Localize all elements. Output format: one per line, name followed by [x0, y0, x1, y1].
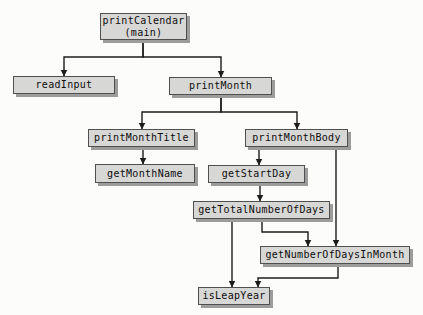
node-getStartDay: getStartDay	[208, 165, 305, 183]
edge-getTotalNumberOfDays-getNumberOfDaysInMonth	[262, 219, 308, 246]
node-readInput: readInput	[13, 76, 115, 94]
node-getTotalNumberOfDays: getTotalNumberOfDays	[193, 201, 330, 219]
edge-printCalendar-readInput	[64, 40, 143, 76]
node-printMonthTitle: printMonthTitle	[88, 129, 195, 147]
node-getMonthName: getMonthName	[95, 164, 195, 183]
edge-printMonth-printMonthBody	[221, 95, 297, 129]
structure-chart: printCalendar (main) readInput printMont…	[0, 0, 423, 315]
node-getNumberOfDaysInMonth: getNumberOfDaysInMonth	[260, 246, 410, 264]
node-printMonthBody: printMonthBody	[245, 129, 348, 147]
edge-printCalendar-printMonth	[143, 40, 221, 77]
node-printMonth: printMonth	[169, 77, 272, 95]
call-edges	[0, 0, 423, 315]
node-printCalendar: printCalendar (main)	[100, 13, 187, 40]
edge-getNumberOfDaysInMonth-isLeapYear	[258, 264, 338, 287]
node-isLeapYear: isLeapYear	[198, 287, 270, 305]
edge-printMonth-printMonthTitle	[142, 95, 221, 129]
